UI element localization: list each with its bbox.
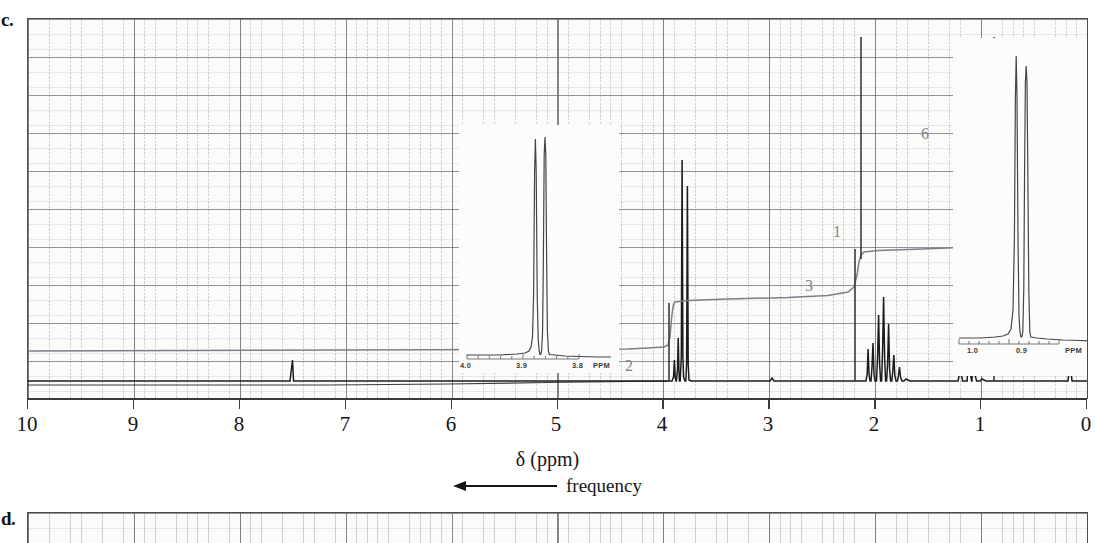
- integration-label-6: 6: [921, 125, 929, 143]
- frequency-direction-indicator: frequency: [0, 475, 1095, 497]
- x-tick-0: [1086, 398, 1087, 409]
- inset-right-unit-label: PPM: [1065, 346, 1082, 355]
- x-tick-label-3: 3: [748, 412, 788, 437]
- inset-left-unit-label: PPM: [593, 361, 610, 370]
- x-tick-5: [557, 398, 558, 409]
- panel-letter-d: d.: [1, 508, 15, 530]
- integration-step-markers: [669, 37, 994, 381]
- inset-left-tick-3-8: 3.8: [572, 361, 583, 370]
- x-tick-1: [980, 398, 981, 409]
- inset-left-trace: [459, 125, 619, 373]
- x-tick-2: [874, 398, 875, 409]
- panel-d-nmr-spectrum: d.: [0, 495, 1095, 542]
- integration-label-2: 2: [625, 357, 633, 375]
- x-tick-4: [662, 398, 663, 409]
- x-tick-7: [345, 398, 346, 409]
- x-tick-label-7: 7: [325, 412, 365, 437]
- left-arrow-icon: [453, 478, 557, 494]
- integration-label-3: 3: [805, 277, 813, 295]
- x-tick-8: [239, 398, 240, 409]
- x-tick-6: [451, 398, 452, 409]
- x-tick-3: [768, 398, 769, 409]
- frequency-label: frequency: [566, 475, 642, 497]
- inset-expansion-left: 4.0 3.9 3.8 PPM: [459, 125, 619, 373]
- x-tick-label-4: 4: [642, 412, 682, 437]
- inset-left-tick-4-0: 4.0: [460, 361, 471, 370]
- integration-label-1: 1: [833, 223, 841, 241]
- x-axis-label: δ (ppm): [0, 448, 1095, 471]
- inset-right-trace: [953, 38, 1088, 376]
- inset-left-tick-3-9: 3.9: [516, 361, 527, 370]
- x-tick-label-6: 6: [431, 412, 471, 437]
- inset-expansion-right: 1.0 0.9 PPM: [953, 38, 1088, 376]
- x-tick-label-2: 2: [854, 412, 894, 437]
- x-tick-9: [133, 398, 134, 409]
- panel-c-nmr-spectrum: c. 2 3 1 6: [0, 0, 1095, 495]
- spectrum-plot-area: 2 3 1 6: [27, 18, 1088, 399]
- x-tick-label-8: 8: [219, 412, 259, 437]
- x-tick-label-0: 0: [1066, 412, 1095, 437]
- x-tick-label-10: 10: [7, 412, 47, 437]
- inset-right-tick-0-9: 0.9: [1016, 346, 1027, 355]
- x-tick-label-9: 9: [113, 412, 153, 437]
- panel-letter-c: c.: [1, 9, 13, 31]
- major-gridlines-d: [28, 513, 1087, 543]
- x-tick-label-5: 5: [536, 412, 576, 437]
- x-tick-10: [27, 398, 28, 409]
- inset-right-tick-1-0: 1.0: [967, 346, 978, 355]
- spectrum-plot-area-d: [27, 512, 1088, 543]
- x-tick-label-1: 1: [960, 412, 1000, 437]
